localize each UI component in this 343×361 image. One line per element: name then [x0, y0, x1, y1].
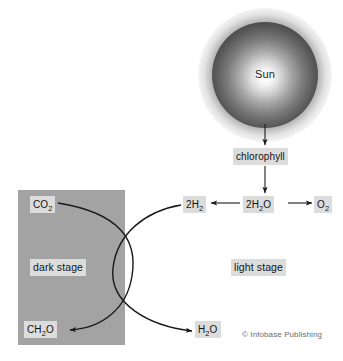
node-water-product-tail: O	[210, 324, 218, 335]
light-stage-label: light stage	[231, 259, 286, 276]
node-hydrogen: 2H2	[183, 196, 206, 213]
node-formaldehyde-text: CH	[27, 324, 42, 335]
arrow-hydrogen-to-water	[113, 205, 192, 331]
node-formaldehyde: CH2O	[24, 321, 57, 338]
node-carbon-dioxide-subscript: 2	[48, 204, 52, 213]
copyright-notice: © Infobase Publishing	[242, 330, 322, 339]
node-oxygen-subscript: 2	[325, 204, 329, 213]
node-water-reactant-tail: O	[263, 199, 271, 210]
node-chlorophyll: chlorophyll	[233, 148, 288, 165]
node-hydrogen-subscript: 2	[199, 204, 203, 213]
node-water-reactant: 2H2O	[243, 196, 274, 213]
node-hydrogen-text: 2H	[186, 199, 199, 210]
node-carbon-dioxide-text: CO	[33, 199, 48, 210]
photosynthesis-diagram: Sun CO2 dark stage CH2O 2H2 2H2O O2 H2O …	[0, 0, 343, 361]
node-carbon-dioxide: CO2	[30, 196, 55, 213]
node-water-reactant-text: 2H	[246, 199, 259, 210]
node-oxygen: O2	[314, 196, 332, 213]
node-formaldehyde-tail: O	[46, 324, 54, 335]
dark-stage-label: dark stage	[30, 259, 86, 276]
node-water-product: H2O	[195, 321, 221, 338]
node-oxygen-text: O	[317, 199, 325, 210]
arrow-layer	[0, 0, 343, 361]
